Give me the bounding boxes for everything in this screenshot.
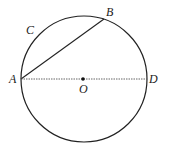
geometry-diagram: A B C D O bbox=[0, 0, 169, 152]
label-a: A bbox=[8, 72, 17, 86]
label-o: O bbox=[79, 82, 88, 96]
label-b: B bbox=[106, 5, 114, 19]
label-d: D bbox=[148, 72, 158, 86]
center-point-o bbox=[81, 77, 85, 81]
label-c: C bbox=[26, 23, 35, 37]
